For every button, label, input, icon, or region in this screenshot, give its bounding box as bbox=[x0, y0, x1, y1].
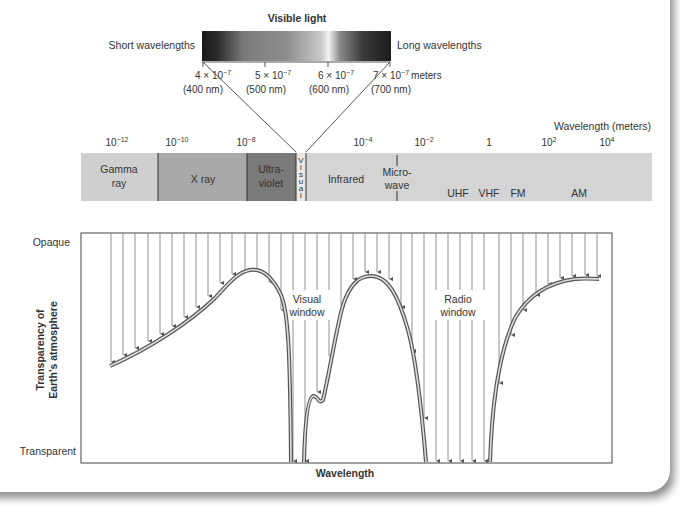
gamma-label: Gamma bbox=[100, 163, 138, 175]
visible-gradient-bar bbox=[202, 31, 391, 61]
infrared-label: Infrared bbox=[328, 173, 364, 185]
svg-text:window: window bbox=[288, 306, 324, 318]
transparency-chart: Opaque Transparent Transparency of Earth… bbox=[20, 233, 612, 479]
spectrum-ticks: 10−12 10−10 10−8 10−4 10−2 1 102 104 bbox=[106, 136, 615, 148]
vhf-label: VHF bbox=[479, 187, 500, 199]
svg-text:102: 102 bbox=[541, 136, 556, 148]
radio-window-label: Radio bbox=[444, 293, 472, 305]
microwave-label: Micro- bbox=[382, 166, 412, 178]
y-axis-title: Transparency of Earth's atmosphere bbox=[34, 301, 59, 399]
absorption-curve bbox=[110, 270, 599, 462]
svg-text:wave: wave bbox=[384, 179, 410, 191]
uv-label: Ultra- bbox=[258, 163, 284, 175]
short-wavelengths-label: Short wavelengths bbox=[109, 39, 195, 51]
visual-window-label: Visual bbox=[293, 293, 321, 305]
vis-tick-400-nm: (400 nm) bbox=[183, 84, 223, 95]
x-axis-title: Wavelength bbox=[316, 467, 375, 479]
svg-text:10−8: 10−8 bbox=[236, 136, 255, 148]
vis-tick-500: 5 × 10−7 bbox=[255, 69, 291, 81]
em-spectrum-band: Wavelength (meters) 10−12 10−10 10−8 10−… bbox=[81, 120, 652, 201]
uhf-label: UHF bbox=[447, 187, 469, 199]
fm-label: FM bbox=[510, 187, 525, 199]
svg-text:10−2: 10−2 bbox=[414, 136, 433, 148]
wavelength-meters-label: Wavelength (meters) bbox=[554, 120, 651, 132]
vis-tick-500-nm: (500 nm) bbox=[246, 84, 286, 95]
svg-text:window: window bbox=[439, 306, 475, 318]
em-spectrum-figure: Visible light Short wavelengths Long wav… bbox=[0, 0, 680, 510]
vis-tick-700-nm: (700 nm) bbox=[371, 84, 411, 95]
am-label: AM bbox=[571, 187, 587, 199]
svg-text:10−4: 10−4 bbox=[353, 136, 372, 148]
svg-text:l: l bbox=[300, 191, 302, 200]
xray-label: X ray bbox=[191, 173, 216, 185]
vis-tick-600: 6 × 10−7 bbox=[318, 69, 354, 81]
y-label-transparent: Transparent bbox=[20, 445, 76, 457]
svg-text:violet: violet bbox=[259, 177, 284, 189]
svg-text:Transparency of: Transparency of bbox=[34, 309, 46, 391]
svg-text:1: 1 bbox=[486, 137, 492, 148]
y-label-opaque: Opaque bbox=[33, 236, 71, 248]
vis-tick-700: 7 × 10−7meters bbox=[373, 69, 442, 81]
chart-frame bbox=[81, 233, 612, 463]
long-wavelengths-label: Long wavelengths bbox=[397, 39, 482, 51]
svg-text:10−12: 10−12 bbox=[106, 136, 129, 148]
absorption-arrows bbox=[111, 233, 597, 461]
svg-text:10−10: 10−10 bbox=[166, 136, 189, 148]
svg-text:Earth's atmosphere: Earth's atmosphere bbox=[47, 301, 59, 399]
visible-light-title: Visible light bbox=[268, 12, 327, 24]
vis-tick-400: 4 × 10−7 bbox=[195, 69, 231, 81]
svg-text:ray: ray bbox=[112, 177, 127, 189]
visible-light-section: Visible light Short wavelengths Long wav… bbox=[109, 12, 482, 152]
svg-text:104: 104 bbox=[599, 136, 614, 148]
vis-tick-600-nm: (600 nm) bbox=[309, 84, 349, 95]
